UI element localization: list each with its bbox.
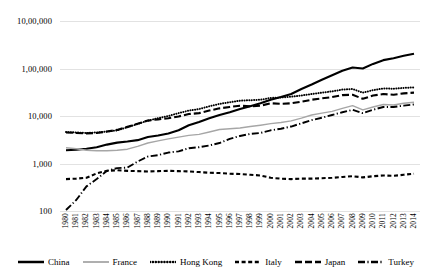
legend-item-turkey[interactable]: Turkey [358,257,414,267]
y-axis-tick-label: 10,000 [28,112,52,121]
x-axis-tick-label: 1989 [154,213,162,229]
chart-legend: ChinaFranceHong KongItalyJapanTurkey [0,252,432,272]
y-axis: 1001,00010,0001,00,00010,00,000 [0,0,56,232]
x-axis-tick-label: 1982 [82,213,90,229]
x-axis-tick-label: 2002 [287,213,295,229]
legend-item-hong-kong[interactable]: Hong Kong [150,257,222,267]
plot-area [60,21,420,211]
x-axis-tick-label: 1980 [62,213,70,229]
x-axis-tick-label: 2010 [369,213,377,229]
x-axis-tick-label: 2005 [318,213,326,229]
y-axis-tick-label: 10,00,000 [17,17,52,26]
legend-swatch-icon [18,257,44,267]
x-axis-tick-label: 2001 [277,213,285,229]
x-axis-tick-label: 1997 [236,213,244,229]
legend-label: France [113,257,138,267]
x-axis-tick-label: 2008 [349,213,357,229]
x-axis-tick-label: 1987 [134,213,142,229]
legend-swatch-icon [358,257,384,267]
x-axis-tick-label: 1988 [144,213,152,229]
legend-swatch-icon [235,257,261,267]
x-axis-tick-label: 1995 [216,213,224,229]
legend-swatch-icon [83,257,109,267]
x-axis-tick-label: 1990 [164,213,172,229]
legend-item-italy[interactable]: Italy [235,257,282,267]
x-axis-tick-label: 2000 [267,213,275,229]
x-axis-tick-label: 2014 [410,213,418,229]
legend-swatch-icon [295,257,321,267]
x-axis-tick-label: 1994 [205,213,213,229]
x-axis-tick-label: 2007 [338,213,346,229]
legend-item-japan[interactable]: Japan [295,257,346,267]
x-axis-tick-label: 2013 [400,213,408,229]
y-axis-tick-label: 1,000 [32,159,52,168]
x-axis-tick-label: 1985 [113,213,121,229]
legend-label: China [48,257,70,267]
legend-swatch-icon [150,257,176,267]
x-axis-tick-label: 1993 [195,213,203,229]
x-axis-tick-label: 1983 [93,213,101,229]
x-axis-tick-label: 2012 [390,213,398,229]
x-axis-tick-label: 1984 [103,213,111,229]
legend-item-france[interactable]: France [83,257,138,267]
legend-item-china[interactable]: China [18,257,70,267]
x-axis-tick-label: 2011 [379,213,387,228]
chart-container: 1001,00010,0001,00,00010,00,000 19801981… [0,0,432,276]
x-axis-tick-label: 1998 [246,213,254,229]
legend-label: Italy [265,257,282,267]
series-line-turkey [66,104,414,210]
legend-label: Japan [325,257,346,267]
series-line-italy [66,170,414,179]
x-axis: 1980198119821983198419851986198719881989… [60,213,420,247]
x-axis-tick-label: 1981 [72,213,80,229]
series-lines [60,21,420,211]
x-axis-tick-label: 1986 [123,213,131,229]
x-axis-tick-label: 2004 [308,213,316,229]
x-axis-tick-label: 2003 [297,213,305,229]
x-axis-tick-label: 2006 [328,213,336,229]
x-axis-tick-label: 2009 [359,213,367,229]
x-axis-tick-label: 1992 [185,213,193,229]
x-axis-tick-label: 1991 [175,213,183,229]
legend-label: Turkey [388,257,414,267]
series-line-hong-kong [66,87,414,133]
y-axis-tick-label: 1,00,000 [21,64,52,73]
x-axis-tick-label: 1996 [226,213,234,229]
y-axis-tick-label: 100 [39,207,52,216]
x-axis-tick-label: 1999 [256,213,264,229]
legend-label: Hong Kong [180,257,222,267]
